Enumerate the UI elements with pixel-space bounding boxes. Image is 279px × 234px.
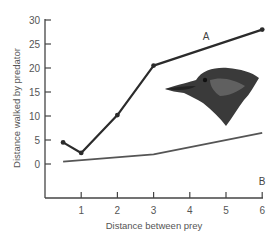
data-point: [115, 113, 120, 118]
data-point: [151, 63, 156, 68]
y-axis: 051015202530: [29, 15, 51, 199]
x-axis-label: Distance between prey: [106, 220, 203, 231]
y-tick-label: 25: [29, 39, 41, 50]
x-tick-label: 2: [115, 205, 121, 216]
y-tick-label: 30: [29, 15, 41, 26]
bird-head-illustration: [165, 68, 259, 126]
series-label-a: A: [203, 31, 210, 42]
y-tick-label: 0: [34, 159, 40, 170]
data-point: [260, 27, 265, 32]
x-tick-label: 4: [187, 205, 193, 216]
series-label-b: B: [259, 176, 266, 187]
y-tick-label: 10: [29, 111, 41, 122]
data-point: [79, 151, 84, 156]
x-tick-label: 5: [223, 205, 229, 216]
y-axis-label: Distance walked by predator: [11, 48, 22, 168]
chart: 051015202530 123456 Distance walked by p…: [0, 0, 279, 234]
y-tick-label: 5: [34, 135, 40, 146]
x-tick-label: 3: [151, 205, 157, 216]
x-axis: 123456: [45, 192, 265, 216]
y-tick-label: 20: [29, 63, 41, 74]
data-point: [61, 140, 66, 145]
x-tick-label: 6: [259, 205, 265, 216]
y-tick-label: 15: [29, 87, 41, 98]
x-tick-label: 1: [78, 205, 84, 216]
